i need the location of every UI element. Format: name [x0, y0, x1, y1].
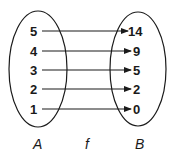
- codomain-value: 14: [128, 24, 143, 39]
- mapping-diagram: 5 4 3 2 1 14 9 5 2 0 A f B: [0, 0, 169, 161]
- domain-value: 2: [30, 82, 37, 97]
- mapping-arrows: [42, 31, 131, 109]
- domain-value: 4: [30, 44, 38, 59]
- codomain-value: 5: [133, 63, 140, 78]
- codomain-value: 2: [133, 82, 140, 97]
- function-label: f: [85, 136, 91, 152]
- codomain-value: 9: [133, 44, 140, 59]
- domain-value: 1: [30, 102, 37, 117]
- codomain-value: 0: [133, 102, 140, 117]
- codomain-label: B: [135, 136, 144, 152]
- domain-label: A: [32, 136, 42, 152]
- domain-value: 5: [30, 24, 37, 39]
- domain-value: 3: [30, 63, 37, 78]
- domain-values: 5 4 3 2 1: [30, 24, 38, 117]
- domain-set-ellipse: [9, 11, 67, 127]
